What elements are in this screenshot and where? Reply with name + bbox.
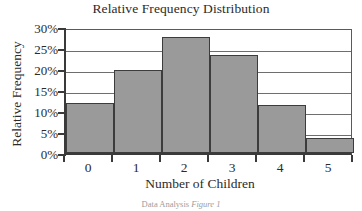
x-axis-tick-label: 2 — [164, 160, 204, 176]
figure-caption: Data Analysis Figure 1 — [0, 199, 362, 209]
bar — [258, 105, 306, 153]
bar — [306, 138, 354, 153]
x-axis-tick-label: 1 — [116, 160, 156, 176]
y-axis-tick — [58, 49, 66, 51]
x-axis-tick — [159, 155, 161, 162]
x-axis-tick-label: 0 — [68, 160, 108, 176]
x-axis-tick-label: 3 — [212, 160, 252, 176]
caption-emphasis: Figure 1 — [191, 199, 220, 209]
bar — [210, 55, 258, 153]
bar-series — [66, 30, 351, 153]
y-axis-tick-label: 5% — [2, 126, 58, 142]
y-axis-tick-label: 0% — [2, 147, 58, 163]
figure-container: Relative Frequency Distribution Relative… — [0, 0, 362, 211]
y-axis-tick-label: 10% — [2, 105, 58, 121]
x-axis-tick — [255, 155, 257, 162]
y-axis-tick — [58, 112, 66, 114]
y-axis-tick — [58, 70, 66, 72]
y-axis-tick — [58, 133, 66, 135]
plot-area — [64, 29, 352, 155]
y-axis-tick-label: 15% — [2, 84, 58, 100]
x-axis-title: Number of Children — [40, 176, 360, 192]
caption-prefix: Data Analysis — [142, 199, 192, 209]
x-axis-tick-label: 4 — [260, 160, 300, 176]
y-axis-tick — [58, 91, 66, 93]
x-axis-tick — [207, 155, 209, 162]
bar — [162, 37, 210, 153]
y-axis-tick-label: 30% — [2, 21, 58, 37]
x-axis-tick — [303, 155, 305, 162]
x-axis-tick — [63, 155, 65, 162]
bar — [114, 70, 162, 153]
x-axis-tick — [351, 155, 353, 162]
x-axis-tick — [111, 155, 113, 162]
y-axis-tick — [58, 28, 66, 30]
y-axis-tick — [58, 154, 66, 156]
y-axis-tick-label: 25% — [2, 42, 58, 58]
bar — [66, 103, 114, 153]
x-axis-tick-label: 5 — [308, 160, 348, 176]
y-axis-tick-label: 20% — [2, 63, 58, 79]
